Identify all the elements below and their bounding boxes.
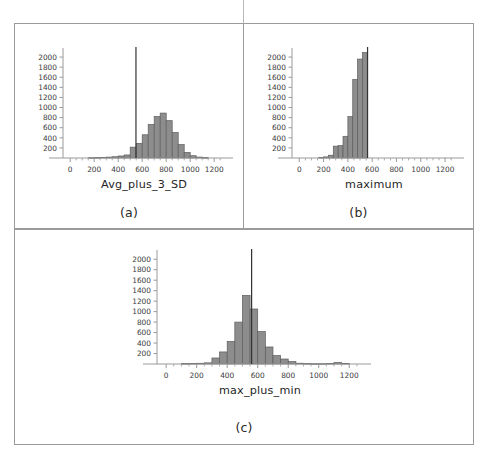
x-axis-tick-label: 400	[341, 165, 355, 174]
histogram-c: 2004006008001000120014001600180020000200…	[125, 242, 373, 404]
histogram-bar	[142, 135, 148, 158]
y-axis-tick-label: 800	[43, 113, 57, 122]
subfigure-panel-b: 2004006008001000120014001600180020000200…	[243, 23, 474, 229]
y-axis-tick-label: 1600	[267, 73, 286, 82]
histogram-bar	[148, 124, 154, 158]
x-axis-title: max_plus_min	[219, 384, 301, 397]
y-axis-tick-label: 1600	[132, 276, 151, 285]
histogram-bar	[220, 352, 228, 364]
y-axis-tick-label: 1400	[38, 83, 57, 92]
subfigure-panel-c: 2004006008001000120014001600180020000200…	[14, 229, 474, 445]
y-axis-tick-label: 400	[43, 134, 57, 143]
histogram-bar	[160, 113, 166, 158]
histogram-bar	[212, 358, 220, 364]
y-axis-tick-label: 2000	[38, 53, 57, 62]
x-axis-tick-label: 600	[135, 165, 149, 174]
y-axis-tick-label: 2000	[267, 53, 286, 62]
y-axis-tick-label: 1000	[132, 307, 151, 316]
x-axis-title: maximum	[345, 178, 403, 191]
y-axis-tick-label: 1400	[132, 286, 151, 295]
y-axis-tick-label: 600	[43, 123, 57, 132]
histogram-bar	[136, 143, 142, 158]
x-axis-tick-label: 1200	[340, 371, 359, 380]
histogram-bar	[166, 121, 172, 158]
histogram-bar	[333, 146, 338, 158]
y-axis-tick-label: 400	[137, 339, 151, 348]
x-axis-tick-label: 600	[365, 165, 379, 174]
histogram-bar	[235, 322, 243, 364]
y-axis-tick-label: 1000	[38, 103, 57, 112]
y-axis-tick-label: 2000	[132, 255, 151, 264]
subfigure-panel-a: 2004006008001000120014001600180020000200…	[14, 23, 243, 229]
x-axis-tick-label: 200	[87, 165, 101, 174]
x-axis-tick-label: 600	[251, 371, 265, 380]
histogram-bar	[273, 356, 281, 364]
histogram-bar	[178, 145, 184, 158]
y-axis-tick-label: 800	[137, 318, 151, 327]
x-axis-tick-label: 1000	[411, 165, 430, 174]
y-axis-tick-label: 1200	[132, 297, 151, 306]
histogram-bar	[172, 133, 178, 158]
histogram-b: 2004006008001000120014001600180020000200…	[262, 42, 462, 194]
x-axis-tick-label: 400	[111, 165, 125, 174]
y-axis-tick-label: 200	[137, 349, 151, 358]
x-axis-tick-label: 200	[317, 165, 331, 174]
x-axis-tick-label: 1000	[181, 165, 200, 174]
x-axis-tick-label: 1200	[436, 165, 455, 174]
histogram-bar	[227, 341, 235, 364]
y-axis-tick-label: 600	[137, 328, 151, 337]
y-axis-tick-label: 1800	[132, 265, 151, 274]
histogram-bar	[343, 136, 348, 158]
y-axis-tick-label: 1800	[38, 63, 57, 72]
histogram-a: 2004006008001000120014001600180020000200…	[35, 42, 231, 194]
histogram-bar	[348, 117, 353, 158]
x-axis-tick-label: 1200	[205, 165, 224, 174]
histogram-bar	[338, 146, 343, 158]
x-axis-tick-label: 1000	[309, 371, 328, 380]
y-axis-tick-label: 1600	[38, 73, 57, 82]
x-axis-tick-label: 400	[220, 371, 234, 380]
x-axis-tick-label: 800	[389, 165, 403, 174]
y-axis-tick-label: 800	[272, 113, 286, 122]
histogram-bar	[258, 332, 266, 364]
x-axis-tick-label: 800	[159, 165, 173, 174]
histogram-bar	[281, 359, 289, 364]
y-axis-tick-label: 200	[272, 144, 286, 153]
x-axis-tick-label: 0	[68, 165, 73, 174]
x-axis-tick-label: 800	[281, 371, 295, 380]
histogram-bar	[265, 347, 273, 364]
subfigure-caption-c: (c)	[15, 420, 473, 435]
y-axis-tick-label: 1400	[267, 83, 286, 92]
histogram-bar	[242, 295, 250, 364]
top-rule-stub	[243, 0, 244, 23]
histogram-bar	[154, 117, 160, 158]
x-axis-title: Avg_plus_3_SD	[101, 178, 187, 191]
subfigure-caption-b: (b)	[244, 205, 473, 220]
y-axis-tick-label: 1800	[267, 63, 286, 72]
histogram-bar	[358, 59, 363, 158]
histogram-bar	[184, 152, 190, 158]
histogram-bar	[353, 80, 358, 158]
x-axis-tick-label: 0	[164, 371, 169, 380]
y-axis-tick-label: 1200	[38, 93, 57, 102]
histogram-bar	[130, 147, 136, 158]
y-axis-tick-label: 1000	[267, 103, 286, 112]
histogram-bar	[362, 53, 367, 159]
figure-root: 2004006008001000120014001600180020000200…	[0, 0, 488, 457]
y-axis-tick-label: 600	[272, 123, 286, 132]
subfigure-caption-a: (a)	[15, 205, 243, 220]
x-axis-tick-label: 200	[190, 371, 204, 380]
x-axis-tick-label: 0	[297, 165, 302, 174]
y-axis-tick-label: 200	[43, 144, 57, 153]
y-axis-tick-label: 400	[272, 134, 286, 143]
y-axis-tick-label: 1200	[267, 93, 286, 102]
